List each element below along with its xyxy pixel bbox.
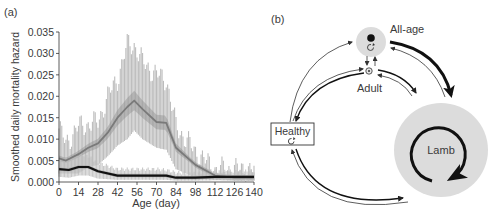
panel-b-label: (b): [271, 13, 284, 25]
confidence-bands: [59, 34, 254, 182]
panel-a-chart: (a) 0.0000.0050.0100.0150.0200.0250.0300…: [4, 6, 263, 209]
y-tick-label: 0.035: [28, 26, 54, 38]
arrow-healthy-to-adult: [293, 69, 363, 121]
x-tick-label: 42: [112, 186, 124, 198]
x-axis-ticks: 014284256708498112126140: [56, 182, 263, 198]
y-tick-label: 0.000: [28, 176, 54, 188]
y-tick-label: 0.015: [28, 112, 54, 124]
arrow-lamb-to-adult: [378, 75, 412, 96]
x-tick-label: 112: [207, 186, 224, 198]
y-axis-label: Smoothed daily mortality hazard: [9, 32, 21, 182]
panel-b-diagram: (b) All-age Adult Healthy: [271, 13, 488, 205]
x-axis-label: Age (day): [132, 197, 180, 209]
panel-a-label: (a): [4, 6, 17, 18]
node-lamb: Lamb: [394, 103, 488, 197]
y-tick-label: 0.030: [28, 47, 54, 59]
node-label-lamb: Lamb: [427, 144, 455, 156]
arrow-lamb-to-healthy: [292, 150, 408, 205]
y-axis-ticks: 0.0000.0050.0100.0150.0200.0250.0300.035: [28, 26, 59, 188]
x-tick-label: 28: [92, 186, 104, 198]
node-label-all-age: All-age: [390, 23, 424, 35]
node-healthy: Healthy: [271, 123, 314, 145]
node-label-healthy: Healthy: [275, 125, 311, 137]
node-all-age: All-age: [356, 23, 424, 57]
x-tick-label: 14: [73, 186, 85, 198]
y-tick-label: 0.025: [28, 69, 54, 81]
arrow-healthy-to-allage: [290, 42, 352, 122]
y-tick-label: 0.005: [28, 155, 54, 167]
infection-dot-icon: [367, 34, 375, 42]
x-tick-label: 98: [190, 186, 202, 198]
node-label-adult: Adult: [357, 82, 382, 94]
x-tick-label: 140: [245, 186, 263, 198]
arrow-healthy-to-lamb: [296, 149, 403, 200]
arrow-lamb-to-allage: [391, 48, 445, 97]
node-adult: Adult: [357, 68, 382, 94]
y-tick-label: 0.010: [28, 133, 54, 145]
figure: (a) 0.0000.0050.0100.0150.0200.0250.0300…: [0, 0, 491, 223]
x-tick-label: 126: [226, 186, 244, 198]
y-tick-label: 0.020: [28, 90, 54, 102]
x-tick-label: 0: [56, 186, 62, 198]
